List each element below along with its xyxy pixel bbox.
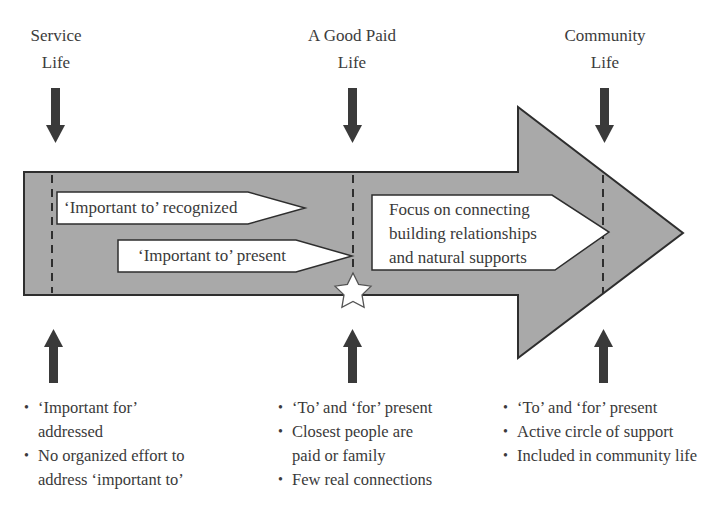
stage-title-community-line2: Life bbox=[540, 49, 670, 76]
paid-bullet-3: Few real connections bbox=[278, 468, 468, 492]
community-bullet-2: Active circle of support bbox=[503, 420, 703, 444]
focus-line-3: and natural supports bbox=[389, 246, 537, 270]
focus-line-1: Focus on connecting bbox=[389, 198, 537, 222]
stage-title-community-line1: Community bbox=[540, 22, 670, 49]
paid-bullet-2: Closest people are paid or family bbox=[278, 420, 442, 468]
focus-line-2: building relationships bbox=[389, 222, 537, 246]
service-life-bullets: ‘Important for’ addressed No organized e… bbox=[24, 396, 194, 492]
important-to-recognized-label: ‘Important to’ recognized bbox=[64, 196, 237, 220]
arrow-down-icon-community bbox=[595, 88, 614, 143]
service-bullet-1: ‘Important for’ addressed bbox=[24, 396, 148, 444]
stage-title-community: Community Life bbox=[540, 22, 670, 76]
service-bullet-2: No organized effort to address ‘importan… bbox=[24, 444, 198, 492]
stage-title-service-line2: Life bbox=[6, 49, 106, 76]
paid-life-bullets: ‘To’ and ‘for’ present Closest people ar… bbox=[278, 396, 468, 492]
person-centered-life-diagram: Service Life A Good Paid Life Community … bbox=[0, 0, 709, 530]
paid-bullet-1: ‘To’ and ‘for’ present bbox=[278, 396, 468, 420]
stage-title-paid: A Good Paid Life bbox=[282, 22, 422, 76]
focus-on-connecting-label: Focus on connecting building relationshi… bbox=[389, 198, 537, 270]
arrow-down-icon-paid bbox=[343, 88, 362, 143]
arrow-up-icon-paid bbox=[343, 329, 362, 383]
stage-title-service: Service Life bbox=[6, 22, 106, 76]
stage-title-paid-line2: Life bbox=[282, 49, 422, 76]
community-bullet-1: ‘To’ and ‘for’ present bbox=[503, 396, 703, 420]
arrow-down-icon-service bbox=[46, 88, 65, 143]
community-bullet-3: Included in community life bbox=[503, 444, 707, 468]
arrow-up-icon-service bbox=[44, 329, 63, 383]
arrow-up-icon-community bbox=[594, 329, 613, 383]
stage-title-paid-line1: A Good Paid bbox=[282, 22, 422, 49]
important-to-present-label: ‘Important to’ present bbox=[138, 244, 286, 268]
stage-title-service-line1: Service bbox=[6, 22, 106, 49]
community-life-bullets: ‘To’ and ‘for’ present Active circle of … bbox=[503, 396, 703, 468]
